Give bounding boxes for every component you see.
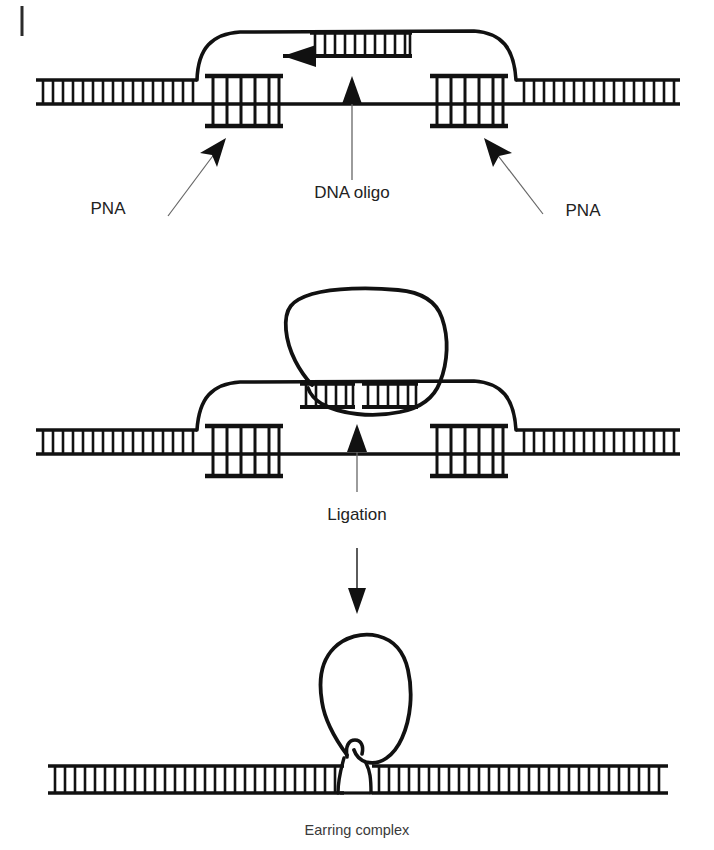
- duplex-ladder-left: [36, 80, 197, 104]
- oligo-hybrid-ladder-right-mid: [362, 384, 418, 407]
- duplex-ladder-right-mid: [516, 430, 680, 454]
- panel-bottom: Earring complex: [48, 635, 668, 838]
- pna-clamp-right-mid: [430, 426, 508, 476]
- duplex-ladder-bottom-right: [372, 766, 668, 793]
- label-dna-oligo: DNA oligo: [314, 183, 390, 202]
- ligation-pointer-arrowhead: [347, 424, 367, 452]
- earring-stem-left: [338, 758, 344, 793]
- pna-clamp-left: [205, 76, 283, 126]
- pna-earring-complex-diagram: PNA DNA oligo PNA: [0, 0, 714, 850]
- pna-clamp-left-mid: [205, 426, 283, 476]
- label-earring-complex: Earring complex: [305, 822, 411, 838]
- dna-oligo-arrowhead: [342, 76, 362, 104]
- panel-top: PNA DNA oligo PNA: [36, 31, 680, 220]
- pna-right-leader-line: [496, 153, 543, 214]
- pna-right-arrowhead: [484, 138, 512, 167]
- oligo-direction-arrowhead: [283, 45, 316, 67]
- dna-oligo-duplex: [283, 33, 412, 67]
- displaced-strand-loop-mid: [197, 381, 516, 430]
- figure-root: PNA DNA oligo PNA: [0, 0, 714, 850]
- label-pna-left: PNA: [91, 199, 127, 218]
- process-arrow-head: [348, 588, 366, 614]
- panel-middle: Ligation: [36, 288, 680, 614]
- duplex-ladder-bottom-left: [48, 766, 344, 793]
- duplex-ladder-left-mid: [36, 430, 197, 454]
- circularized-oligo-loop: [286, 288, 447, 414]
- label-ligation: Ligation: [327, 505, 387, 524]
- label-pna-right: PNA: [566, 201, 602, 220]
- duplex-ladder-right: [516, 80, 680, 104]
- earring-stem-right: [366, 763, 371, 793]
- pna-left-arrowhead: [200, 138, 226, 167]
- earring-loop: [321, 635, 411, 763]
- pna-clamp-right: [430, 76, 508, 126]
- pna-left-leader-line: [168, 153, 215, 216]
